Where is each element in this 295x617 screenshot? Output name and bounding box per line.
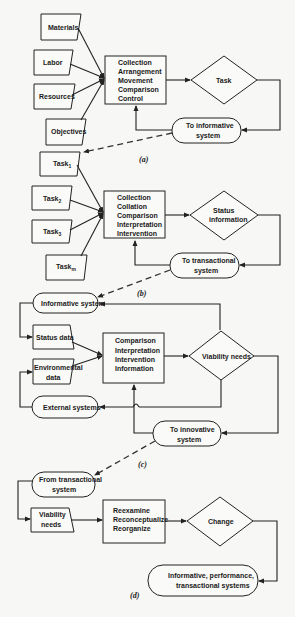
decision-label: Change xyxy=(208,518,234,526)
label-status-data: Status data xyxy=(36,334,74,341)
label-resources: Resources xyxy=(39,93,75,100)
process-line: Comparison xyxy=(117,212,158,220)
caption-c: (c) xyxy=(138,460,147,469)
terminal-label: External systems xyxy=(43,404,101,412)
process-line: Intervention xyxy=(117,230,157,237)
terminal-label: transactional systems xyxy=(176,582,250,590)
terminal-label: system xyxy=(194,267,218,275)
process-line: Arrangement xyxy=(118,68,162,76)
process-line: Collection xyxy=(117,194,151,201)
section-b: Task1 Task2 Task3 Taskm Collection Colla… xyxy=(32,152,280,298)
process-line: Movement xyxy=(118,77,153,84)
process-line: Interpretation xyxy=(117,221,162,229)
terminal-label: system xyxy=(196,132,220,140)
decision-label: Status xyxy=(213,207,235,214)
process-line: Comparison xyxy=(118,86,159,94)
label-viability-needs: Viability xyxy=(39,511,66,519)
process-line: Reexamine xyxy=(113,507,150,514)
label-viability-needs: needs xyxy=(41,521,61,528)
section-d: From transactional system Viability need… xyxy=(18,472,277,600)
terminal-label: system xyxy=(177,436,201,444)
flowchart-canvas: Materials Labor Resources Objectives Col… xyxy=(0,0,295,617)
decision-label: Task xyxy=(216,77,232,84)
label-materials: Materials xyxy=(48,24,78,31)
section-a: Materials Labor Resources Objectives Col… xyxy=(34,14,280,164)
terminal-label: To informative xyxy=(186,122,234,129)
caption-a: (a) xyxy=(139,155,149,164)
decision-label: information xyxy=(209,216,248,223)
process-line: Intervention xyxy=(115,356,155,363)
label-labor: Labor xyxy=(43,59,63,66)
caption-d: (d) xyxy=(130,591,140,600)
terminal-label: Informative, performance, xyxy=(168,572,254,580)
process-line: Comparison xyxy=(115,337,156,345)
label-objectives: Objectives xyxy=(51,128,87,136)
section-c: Informative system Status data Environme… xyxy=(20,293,278,475)
terminal-label: To transactional xyxy=(182,257,236,264)
process-line: Reorganize xyxy=(113,525,151,533)
process-line: Reconceptualize xyxy=(113,516,168,524)
decision-label: Viability needs xyxy=(202,353,251,361)
process-line: Collection xyxy=(118,59,152,66)
process-line: Collation xyxy=(117,203,147,210)
terminal-label: system xyxy=(52,486,76,494)
terminal-systems xyxy=(148,565,258,596)
caption-b: (b) xyxy=(137,289,147,298)
terminal-label: Informative system xyxy=(41,300,105,308)
label-environmental-data: data xyxy=(46,374,61,381)
process-line: Information xyxy=(115,365,154,372)
process-line: Control xyxy=(118,95,143,102)
terminal-label: From transactional xyxy=(39,476,102,483)
terminal-label: To innovative xyxy=(170,426,215,433)
process-line: Interpretation xyxy=(115,347,160,355)
